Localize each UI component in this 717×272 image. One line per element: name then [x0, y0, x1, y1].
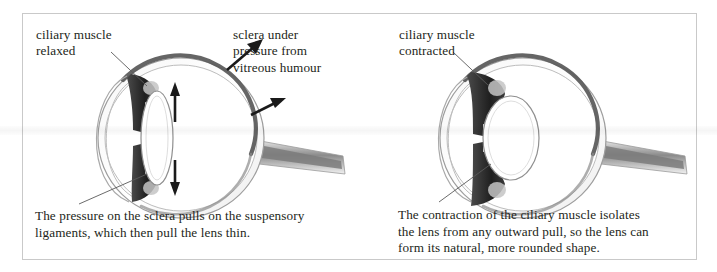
ciliary-muscle-label-relaxed: ciliary muscle relaxed: [36, 27, 112, 60]
panel-contracted: ciliary muscle contracted The contractio…: [379, 14, 698, 261]
sclera-pressure-label: sclera under pressure from vitreous humo…: [233, 27, 321, 76]
lens-rounded: [483, 96, 539, 180]
figure-frame: ciliary muscle relaxed sclera under pres…: [22, 13, 697, 260]
panel-relaxed: ciliary muscle relaxed sclera under pres…: [23, 14, 379, 261]
caption-contracted: The contraction of the ciliary muscle is…: [398, 207, 649, 257]
ciliary-muscle-label-contracted: ciliary muscle contracted: [399, 27, 475, 60]
lens-thin: [141, 91, 173, 185]
caption-relaxed: The pressure on the sclera pulls on the …: [35, 208, 304, 241]
